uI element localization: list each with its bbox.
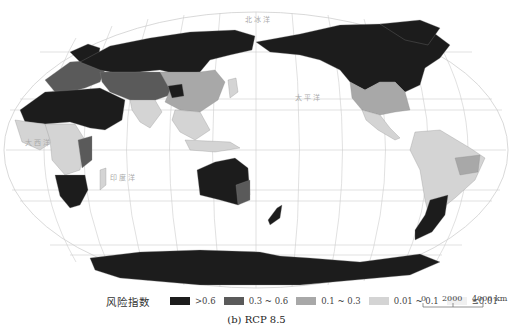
legend-label: 0.3 ~ 0.6 bbox=[249, 296, 289, 306]
legend-label: 0.1 ~ 0.3 bbox=[321, 296, 361, 306]
legend-swatch bbox=[224, 297, 244, 305]
legend-swatch bbox=[369, 297, 389, 305]
legend-swatch bbox=[170, 297, 190, 305]
scale-tick-4000: 4000 km bbox=[472, 294, 507, 303]
ocean-label-indian: 印 度 洋 bbox=[110, 173, 135, 182]
legend-label: >0.6 bbox=[195, 296, 216, 306]
world-risk-map: 大 西 洋 印 度 洋 太 平 洋 北 冰 洋 bbox=[0, 0, 513, 290]
legend-swatch bbox=[296, 297, 316, 305]
legend-item: 0.1 ~ 0.3 bbox=[296, 296, 361, 306]
scale-bar: 0 2000 4000 km bbox=[420, 294, 510, 314]
scale-tick-0: 0 bbox=[421, 294, 426, 303]
ocean-label-arctic: 北 冰 洋 bbox=[245, 15, 270, 24]
legend-title: 风险指数 bbox=[106, 294, 150, 309]
figure-caption: (b) RCP 8.5 bbox=[0, 314, 513, 325]
ocean-label-pacific: 太 平 洋 bbox=[295, 93, 320, 102]
legend-item: 0.3 ~ 0.6 bbox=[224, 296, 289, 306]
ocean-label-atlantic: 大 西 洋 bbox=[25, 138, 50, 147]
scale-tick-2000: 2000 bbox=[442, 294, 462, 303]
legend-item: >0.6 bbox=[170, 296, 216, 306]
scale-bar-line bbox=[420, 303, 490, 309]
